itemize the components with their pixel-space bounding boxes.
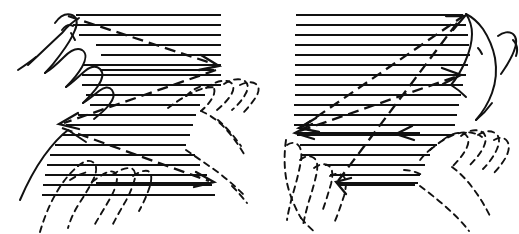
scanning-pattern-figure	[0, 0, 519, 234]
figure-root: Line drawing of two panels. Each panel s…	[0, 0, 519, 234]
